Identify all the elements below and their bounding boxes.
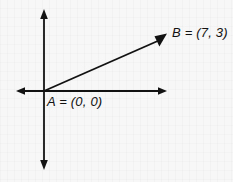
y-axis-down-arrowhead-icon xyxy=(40,160,48,170)
vector-a-to-b xyxy=(44,34,167,92)
x-axis-left-arrowhead-icon xyxy=(16,87,25,95)
y-axis-up-arrowhead-icon xyxy=(40,9,48,19)
x-axis-right-arrowhead-icon xyxy=(158,87,167,95)
coordinate-plane-figure: A = (0, 0) B = (7, 3) xyxy=(0,0,233,182)
point-a-label: A = (0, 0) xyxy=(47,95,102,108)
point-b-label: B = (7, 3) xyxy=(172,26,228,39)
vector-a-to-b-arrowhead-icon xyxy=(155,34,168,47)
vector-a-to-b-line xyxy=(44,40,160,91)
